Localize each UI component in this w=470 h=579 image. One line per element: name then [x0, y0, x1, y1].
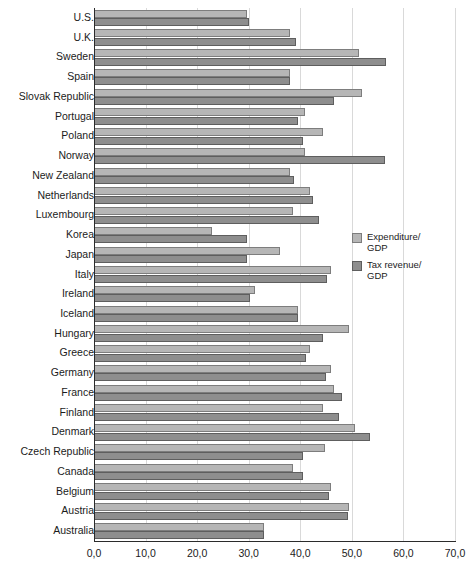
bar-tax-revenue	[94, 18, 249, 26]
bar-tax-revenue	[94, 531, 264, 539]
x-tick-label: 70,0	[445, 547, 465, 559]
chart-legend: Expenditure/ GDP Tax revenue/ GDP	[352, 232, 464, 288]
bar-tax-revenue	[94, 393, 342, 401]
bar-tax-revenue	[94, 196, 313, 204]
bar-tax-revenue	[94, 433, 370, 441]
bar-tax-revenue	[94, 38, 296, 46]
bar-tax-revenue	[94, 58, 386, 66]
bar-expenditure	[94, 168, 290, 176]
bar-tax-revenue	[94, 373, 326, 381]
category-label: Netherlands	[37, 190, 94, 201]
bar-expenditure	[94, 464, 293, 472]
bar-tax-revenue	[94, 314, 298, 322]
bar-tax-revenue	[94, 216, 319, 224]
bar-expenditure	[94, 286, 255, 294]
x-tick-label: 40,0	[290, 547, 310, 559]
bar-expenditure	[94, 424, 355, 432]
x-tick-label: 30,0	[238, 547, 258, 559]
bar-expenditure	[94, 108, 305, 116]
bar-expenditure	[94, 29, 290, 37]
bar-expenditure	[94, 385, 334, 393]
bar-tax-revenue	[94, 492, 329, 500]
bar-expenditure	[94, 325, 349, 333]
bar-expenditure	[94, 148, 305, 156]
bar-expenditure	[94, 365, 331, 373]
legend-item-expenditure: Expenditure/ GDP	[352, 232, 464, 253]
category-label: Spain	[67, 71, 94, 82]
legend-item-tax-revenue: Tax revenue/ GDP	[352, 260, 464, 281]
category-label: Czech Republic	[20, 446, 94, 457]
legend-label-tax-revenue: Tax revenue/ GDP	[367, 260, 421, 281]
x-tick-label: 20,0	[187, 547, 207, 559]
bar-expenditure	[94, 444, 325, 452]
category-label: Portugal	[55, 111, 94, 122]
category-label: Australia	[53, 525, 94, 536]
category-label: Greece	[60, 347, 94, 358]
x-tick-label: 10,0	[135, 547, 155, 559]
category-label: U.S.	[74, 12, 94, 23]
bar-tax-revenue	[94, 77, 290, 85]
category-label: U.K.	[74, 32, 94, 43]
x-tick-label: 0,0	[87, 547, 102, 559]
category-label: Germany	[51, 367, 94, 378]
category-label: Austria	[61, 505, 94, 516]
bar-tax-revenue	[94, 452, 303, 460]
bar-expenditure	[94, 187, 310, 195]
bar-expenditure	[94, 128, 323, 136]
bar-expenditure	[94, 523, 264, 531]
category-label: Canada	[57, 466, 94, 477]
category-label: Hungary	[54, 328, 94, 339]
bar-expenditure	[94, 247, 280, 255]
bar-tax-revenue	[94, 235, 247, 243]
x-axis-line	[94, 541, 456, 542]
bar-expenditure	[94, 306, 298, 314]
bar-tax-revenue	[94, 275, 327, 283]
y-axis-line	[94, 8, 95, 542]
category-label: Iceland	[60, 308, 94, 319]
category-label: Slovak Republic	[19, 91, 94, 102]
x-tick-label: 50,0	[342, 547, 362, 559]
category-label: Japan	[65, 249, 94, 260]
bar-expenditure	[94, 10, 247, 18]
bar-tax-revenue	[94, 472, 303, 480]
bar-expenditure	[94, 49, 359, 57]
bar-tax-revenue	[94, 354, 306, 362]
bar-tax-revenue	[94, 97, 334, 105]
bar-tax-revenue	[94, 294, 250, 302]
category-label: Denmark	[51, 426, 94, 437]
bar-tax-revenue	[94, 176, 294, 184]
bar-tax-revenue	[94, 117, 298, 125]
category-label: Luxembourg	[36, 209, 94, 220]
bar-expenditure	[94, 266, 331, 274]
bar-expenditure	[94, 404, 323, 412]
legend-swatch-expenditure-icon	[352, 233, 362, 243]
category-label: Sweden	[56, 51, 94, 62]
legend-swatch-tax-revenue-icon	[352, 261, 362, 271]
bar-expenditure	[94, 227, 212, 235]
bar-expenditure	[94, 503, 349, 511]
bar-expenditure	[94, 483, 331, 491]
bar-tax-revenue	[94, 413, 339, 421]
category-label: Poland	[61, 130, 94, 141]
category-label: Ireland	[62, 288, 94, 299]
bar-expenditure	[94, 345, 310, 353]
category-label: Norway	[58, 150, 94, 161]
legend-label-expenditure: Expenditure/ GDP	[367, 232, 420, 253]
bar-expenditure	[94, 207, 293, 215]
bar-tax-revenue	[94, 137, 303, 145]
bar-chart: 0,010,020,030,040,050,060,070,0 U.S.U.K.…	[0, 0, 470, 579]
bar-tax-revenue	[94, 255, 247, 263]
category-label: Belgium	[56, 486, 94, 497]
category-label: New Zealand	[32, 170, 94, 181]
bar-tax-revenue	[94, 156, 385, 164]
bar-expenditure	[94, 89, 362, 97]
bar-tax-revenue	[94, 334, 323, 342]
bar-expenditure	[94, 69, 290, 77]
category-label: Italy	[75, 269, 94, 280]
category-label: Korea	[66, 229, 94, 240]
bar-tax-revenue	[94, 512, 348, 520]
x-tick-label: 60,0	[393, 547, 413, 559]
category-label: France	[61, 387, 94, 398]
category-label: Finland	[60, 407, 94, 418]
